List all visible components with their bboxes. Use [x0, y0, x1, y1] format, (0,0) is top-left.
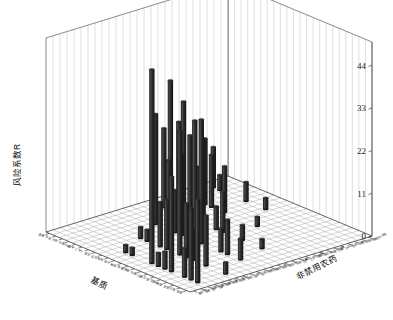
bar3d-plot: 011223344 菠菜芹菜韭菜油麦菜生菜小白菜大白菜甘蓝花椰菜黄瓜番茄茄子辣椒…	[0, 0, 393, 320]
bar	[161, 127, 166, 208]
bar	[130, 247, 135, 257]
bar	[149, 69, 154, 265]
bar	[217, 174, 222, 191]
bar	[188, 207, 193, 281]
bar	[195, 198, 200, 283]
z-tick-label: 22	[357, 146, 366, 156]
y-category-label: 苯醚甲环唑	[372, 231, 388, 242]
bar	[209, 154, 214, 208]
bar	[223, 261, 228, 274]
bar	[225, 219, 230, 256]
chart-figure: 011223344 菠菜芹菜韭菜油麦菜生菜小白菜大白菜甘蓝花椰菜黄瓜番茄茄子辣椒…	[0, 0, 393, 320]
bar	[169, 176, 174, 273]
z-tick-label: 33	[357, 103, 367, 113]
bar	[255, 216, 260, 228]
bar	[259, 238, 264, 250]
bar	[162, 251, 167, 270]
x-axis-title: 基质	[89, 275, 110, 291]
bar	[144, 229, 149, 242]
bar	[203, 214, 208, 266]
bar	[220, 190, 225, 233]
z-tick-label: 11	[357, 189, 366, 199]
bar	[238, 238, 243, 261]
bar	[243, 181, 248, 202]
bar	[158, 201, 163, 247]
bar	[156, 252, 161, 267]
bar	[214, 205, 219, 230]
x-category-label: 菠菜	[175, 288, 183, 295]
bar	[218, 227, 223, 252]
bar	[263, 197, 268, 210]
z-tick-label: 44	[357, 61, 367, 71]
bar	[182, 247, 187, 278]
bar	[138, 226, 143, 239]
bar	[164, 198, 169, 250]
z-axis-title: 风险系数R	[12, 144, 22, 186]
bar	[123, 244, 128, 254]
bar	[177, 130, 182, 256]
